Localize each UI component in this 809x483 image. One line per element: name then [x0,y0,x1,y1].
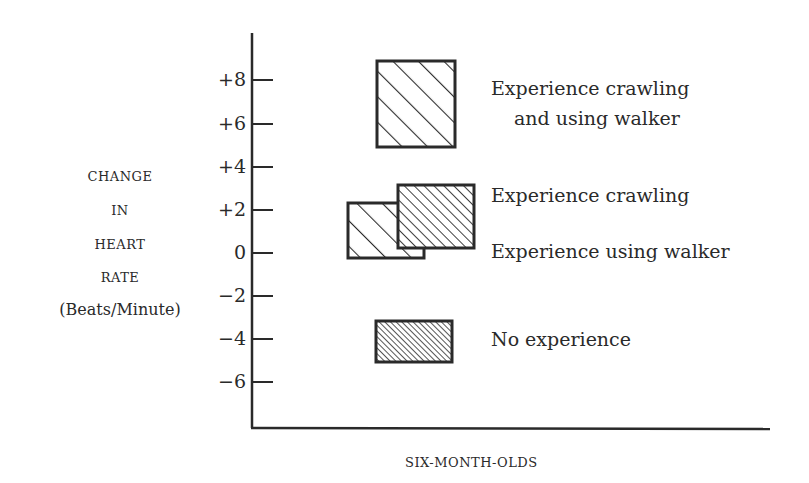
tick-label: 0 [196,241,246,263]
box-crawling-and-walker [377,61,455,147]
ylabel-line-4: RATE [40,270,200,285]
tick-label: +8 [196,68,246,90]
tick-label: −2 [196,284,246,306]
box-no-experience [376,321,452,362]
tick-label: +2 [196,198,246,220]
x-axis [251,428,770,429]
legend-using-walker: Experience using walker [491,240,730,262]
box-crawling-hatch [398,185,474,248]
legend-crawling-and-walker-line1: Experience crawling [491,77,689,99]
x-axis-label: SIX-MONTH-OLDS [405,455,538,470]
tick-label: +6 [196,112,246,134]
ylabel-line-1: CHANGE [40,169,200,184]
ylabel-line-2: IN [40,203,200,218]
tick-label: −6 [196,370,246,392]
ylabel-line-5: (Beats/Minute) [40,300,200,319]
ylabel-line-3: HEART [40,237,200,252]
tick-label: −4 [196,327,246,349]
legend-no-experience: No experience [491,328,631,350]
legend-crawling-and-walker-line2: and using walker [514,107,680,129]
tick-label: +4 [196,155,246,177]
y-ticks [252,80,273,382]
legend-crawling: Experience crawling [491,184,689,206]
